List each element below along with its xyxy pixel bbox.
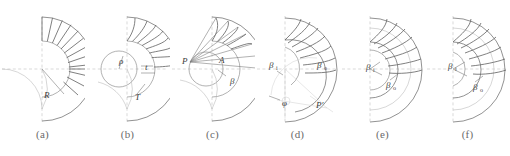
lower-guide-arc-2 [180,80,212,109]
lower-guide-arc [212,69,217,109]
label-e-beta-o-sub: o [393,85,396,91]
blade-cells [453,19,506,74]
beta-i-leader-2 [370,69,382,75]
phi-construction [277,69,333,118]
label-d-beta-o-sub: o [324,65,327,71]
inner-arc [285,47,299,85]
label-d-phi: φ [282,98,287,108]
label-d-beta-i: β [268,60,274,70]
blade-cells [127,18,170,67]
label-d-beta-i-sub: i [276,65,278,71]
construction-arc [271,58,317,95]
label-b-t: t [145,62,148,72]
label-d-beta-o: β [316,60,322,70]
outer-arc [285,18,337,122]
panel-d-drawing: β i β o φ P′ [255,0,340,128]
blade-cells [212,18,252,49]
beta-i-leader [370,62,380,69]
label-c-A: A [218,55,225,65]
panel-d: β i β o φ P′ (d) [255,0,340,156]
panel-e-drawing: β i β o [340,0,425,128]
label-f-beta-i: β [447,61,453,71]
panel-c: P A β (c) [170,0,255,156]
panel-b: ρ t T (b) [85,0,170,156]
figure-container: R (a) ρ [0,0,510,156]
panel-f-drawing: β i β o [425,0,510,128]
label-e-beta-i: β [365,62,371,72]
outer-arc [370,18,422,122]
outer-arc [453,18,505,122]
blade-cells [285,19,336,73]
blade-cells [42,17,85,69]
blade-cells [370,19,422,73]
label-e-beta-o: β [385,80,391,90]
caption-d: (d) [255,128,340,140]
label-e-beta-i-sub: i [373,67,375,73]
label-f-beta-o: β [472,82,478,92]
panel-a-drawing: R [0,0,85,128]
panel-a: R (a) [0,0,85,156]
lower-guide-arc-2 [127,69,132,109]
label-c-P: P [181,56,188,66]
panel-c-drawing: P A β [170,0,255,128]
panel-b-drawing: ρ t T [85,0,170,128]
label-c-beta: β [229,76,235,86]
phi-leader [269,96,280,100]
lower-spokes [64,72,86,96]
panel-f: β i β o (f) [425,0,510,156]
caption-c: (c) [170,128,255,140]
label-d-P-prime: P′ [315,100,324,110]
lower-guide-arc-2 [2,69,42,109]
panel-e: β i β o (e) [340,0,425,156]
caption-a: (a) [0,128,85,140]
caption-e: (e) [340,128,425,140]
caption-b: (b) [85,128,170,140]
label-b-rho: ρ [118,56,124,66]
caption-f: (f) [425,128,510,140]
label-f-beta-o-sub: o [480,87,483,93]
label-a-0: R [43,90,50,100]
lower-guide-arc [42,69,47,109]
